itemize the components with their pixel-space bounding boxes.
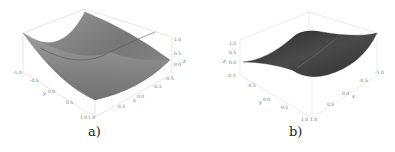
svg-text:1.0: 1.0 <box>301 117 308 122</box>
svg-text:x: x <box>351 93 355 99</box>
panel-label-b: b) <box>289 124 302 139</box>
svg-text:1.0: 1.0 <box>88 115 95 120</box>
svg-text:0.5: 0.5 <box>281 105 288 110</box>
svg-text:0.5: 0.5 <box>66 100 73 105</box>
svg-text:-0.5: -0.5 <box>247 83 256 88</box>
svg-text:-0.5: -0.5 <box>165 76 174 81</box>
svg-text:0.0: 0.0 <box>229 60 236 65</box>
svg-text:1.0: 1.0 <box>174 37 181 42</box>
svg-text:0.0: 0.0 <box>174 62 181 67</box>
svg-text:1.0: 1.0 <box>229 41 236 46</box>
svg-text:x: x <box>132 97 136 103</box>
svg-text:0.0: 0.0 <box>48 89 55 94</box>
figure-panel-b: 1.0 0.5 0.0 -0.5 z -0.5 0.0 0.5 1.0 y -1… <box>197 0 394 152</box>
svg-text:-0.5: -0.5 <box>153 84 162 89</box>
z-axis-ticks-b: 1.0 0.5 0.0 -0.5 z <box>222 41 236 78</box>
svg-text:1.0: 1.0 <box>310 117 317 122</box>
svg-text:0.5: 0.5 <box>229 50 236 55</box>
svg-text:-0.5: -0.5 <box>227 73 236 78</box>
svg-text:0.0: 0.0 <box>342 91 349 96</box>
svg-text:0.5: 0.5 <box>118 104 125 109</box>
svg-text:z: z <box>182 58 186 64</box>
svg-text:1.0: 1.0 <box>80 115 87 120</box>
svg-text:y: y <box>42 90 47 97</box>
svg-text:0.0: 0.0 <box>137 94 144 99</box>
figure-panel-a: -1.0 -0.5 0.0 0.5 1.0 y -0.5 0.0 0.5 1.0… <box>0 0 197 152</box>
svg-text:-1.0: -1.0 <box>13 70 22 75</box>
svg-text:0.5: 0.5 <box>174 51 181 56</box>
surface-b <box>243 31 377 77</box>
panel-label-a: a) <box>88 124 101 139</box>
svg-text:z: z <box>222 58 226 64</box>
y-axis-ticks-b: -0.5 0.0 0.5 1.0 y <box>247 83 308 122</box>
svg-text:-1.0: -1.0 <box>375 70 384 75</box>
svg-text:0.5: 0.5 <box>327 102 334 107</box>
svg-text:-0.5: -0.5 <box>359 78 368 83</box>
svg-text:-0.5: -0.5 <box>30 78 39 83</box>
svg-text:0.0: 0.0 <box>263 97 270 102</box>
